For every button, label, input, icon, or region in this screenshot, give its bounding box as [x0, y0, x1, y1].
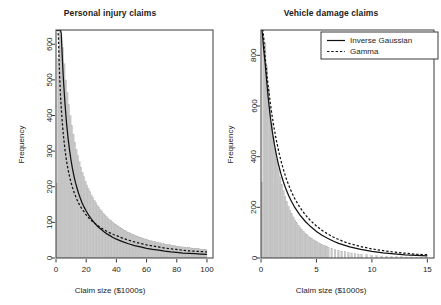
x-tick-label: 20	[82, 265, 91, 274]
histogram-bar	[319, 244, 321, 258]
y-tick-label: 0	[250, 255, 259, 260]
histogram-bar	[324, 246, 326, 258]
histogram-bar	[291, 214, 293, 258]
x-tick-label: 60	[142, 265, 151, 274]
x-tick-label: 40	[112, 265, 121, 274]
histogram-bar	[334, 249, 336, 258]
histogram-bar	[263, 38, 265, 258]
histogram-bar	[73, 134, 75, 258]
histogram-bar	[296, 223, 298, 258]
histogram-bar	[86, 185, 88, 258]
histogram-bar	[318, 243, 320, 258]
histogram-bar	[306, 234, 308, 258]
histogram-bar	[294, 220, 296, 258]
data-layer	[261, 30, 427, 258]
histogram-bar	[269, 106, 271, 258]
y-axis-label-right: Frequency	[226, 125, 235, 163]
x-tick-label: 5	[314, 265, 319, 274]
histogram-bar	[130, 233, 132, 258]
y-tick-label: 0	[45, 255, 54, 260]
histogram-bar	[71, 125, 73, 258]
histogram-bar	[83, 177, 85, 258]
histogram-bar	[341, 251, 343, 258]
histogram-bar	[116, 226, 118, 258]
histogram-bar	[113, 223, 115, 258]
histogram-bar	[118, 227, 120, 258]
x-tick-label: 0	[54, 265, 59, 274]
histogram-bar	[338, 250, 340, 258]
histogram-bar	[136, 236, 138, 258]
histogram-bar	[301, 229, 303, 258]
histogram-bar	[76, 149, 78, 258]
histogram-bar	[128, 233, 130, 258]
y-tick-label: 400	[45, 108, 54, 122]
figure-canvas: Personal injury claims 02040608010001002…	[0, 0, 441, 305]
histogram-bar	[348, 252, 350, 258]
histogram-bar	[103, 213, 105, 258]
y-axis: 0100200300400500600	[45, 37, 56, 260]
histogram-bar	[303, 231, 305, 258]
histogram-bar	[281, 184, 283, 258]
y-tick-label: 800	[250, 48, 259, 62]
x-tick-label: 10	[367, 265, 376, 274]
histogram-bar	[101, 211, 103, 258]
histogram-bar	[283, 191, 285, 258]
histogram-bar	[58, 59, 60, 259]
histogram-bar	[276, 159, 278, 258]
histogram-bar	[125, 231, 127, 258]
histogram-bar	[299, 227, 301, 258]
y-tick-label: 400	[250, 149, 259, 163]
histogram-bar	[131, 234, 133, 258]
histogram-bar	[88, 189, 90, 258]
histogram-bars	[261, 38, 427, 258]
y-tick-label: 200	[45, 180, 54, 194]
histogram-bar	[321, 244, 323, 258]
histogram-bar	[326, 247, 328, 258]
histogram-bar	[284, 196, 286, 258]
panel-vehicle-damage: Vehicle damage claims 051015020040060080…	[221, 0, 441, 305]
histogram-bar	[127, 232, 129, 258]
histogram-bar	[122, 230, 124, 259]
histogram-bar	[298, 225, 300, 258]
histogram-bar	[79, 162, 81, 258]
histogram-bar	[100, 210, 102, 258]
histogram-bar	[94, 200, 96, 258]
histogram-bar	[61, 37, 63, 258]
histogram-bar	[138, 237, 140, 258]
histogram-bar	[98, 207, 100, 258]
y-tick-label: 100	[45, 215, 54, 229]
histogram-bar	[67, 92, 69, 258]
x-tick-label: 80	[172, 265, 181, 274]
histogram-bar	[278, 169, 280, 258]
histogram-bar	[74, 142, 76, 258]
histogram-bar	[313, 240, 315, 258]
histogram-bar	[91, 195, 93, 258]
histogram-bar	[279, 177, 281, 258]
histogram-bar	[268, 87, 270, 258]
histogram-bar	[89, 192, 91, 258]
histogram-bar	[271, 122, 273, 258]
histogram-bar	[344, 252, 346, 258]
histogram-bar	[68, 105, 70, 258]
histogram-bar	[273, 136, 275, 258]
histogram-bar	[97, 205, 99, 258]
histogram-bar	[289, 210, 291, 258]
histogram-bar	[309, 237, 311, 258]
legend-label: Inverse Gaussian	[350, 36, 412, 45]
histogram-bar	[110, 221, 112, 258]
histogram-bar	[135, 235, 137, 258]
histogram-bar	[92, 198, 94, 258]
histogram-bar	[77, 156, 79, 258]
histogram-bar	[112, 222, 114, 258]
histogram-bar	[274, 149, 276, 258]
histogram-bar	[133, 235, 135, 258]
histogram-bar	[311, 238, 313, 258]
x-tick-label: 100	[200, 265, 214, 274]
y-tick-label: 500	[45, 73, 54, 87]
histogram-bar	[115, 225, 117, 258]
histogram-bar	[82, 172, 84, 258]
histogram-bar	[119, 227, 121, 258]
x-axis-label-right: Claim size ($1000s)	[221, 286, 441, 295]
histogram-bar	[124, 230, 126, 258]
x-tick-label: 0	[259, 265, 264, 274]
